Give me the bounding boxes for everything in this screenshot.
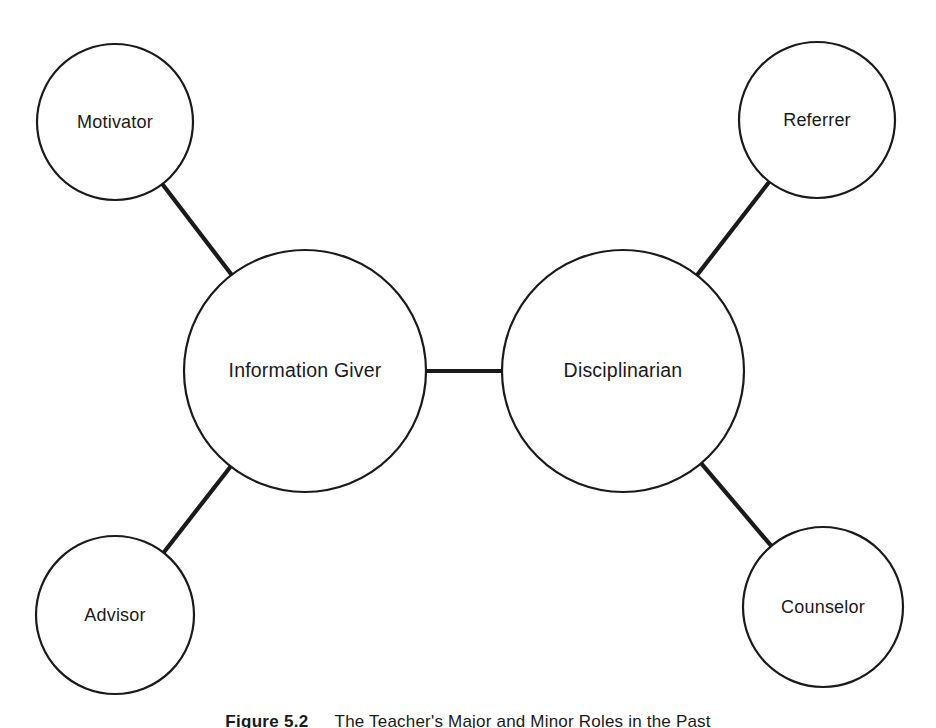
edge-referrer-disciplinarian <box>696 181 770 276</box>
roles-diagram: MotivatorReferrerInformation GiverDiscip… <box>0 0 936 728</box>
node-label-information-giver: Information Giver <box>229 359 382 381</box>
node-label-disciplinarian: Disciplinarian <box>564 359 683 381</box>
node-layer: MotivatorReferrerInformation GiverDiscip… <box>36 42 903 694</box>
node-motivator: Motivator <box>37 44 193 200</box>
edge-motivator-information-giver <box>162 183 233 275</box>
figure-caption-text: The Teacher's Major and Minor Roles in t… <box>335 712 711 728</box>
figure-container: MotivatorReferrerInformation GiverDiscip… <box>0 0 936 728</box>
node-label-advisor: Advisor <box>84 605 145 625</box>
node-advisor: Advisor <box>36 536 194 694</box>
node-disciplinarian: Disciplinarian <box>502 250 744 492</box>
node-information-giver: Information Giver <box>184 250 426 492</box>
figure-caption: Figure 5.2The Teacher's Major and Minor … <box>0 712 936 728</box>
edge-advisor-information-giver <box>163 466 231 554</box>
node-referrer: Referrer <box>739 42 895 198</box>
figure-caption-label: Figure 5.2 <box>225 712 308 728</box>
edge-counselor-disciplinarian <box>701 463 772 547</box>
node-counselor: Counselor <box>743 527 903 687</box>
node-label-counselor: Counselor <box>781 597 865 617</box>
node-label-motivator: Motivator <box>77 112 153 132</box>
node-label-referrer: Referrer <box>783 110 851 130</box>
